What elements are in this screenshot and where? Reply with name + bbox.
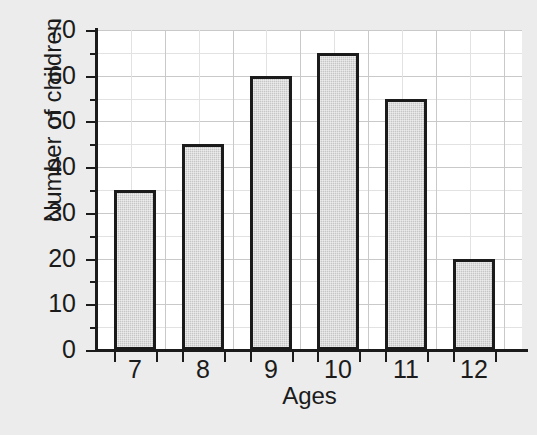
bar <box>317 53 359 350</box>
y-axis-tick-major <box>86 304 97 306</box>
y-axis-tick-label: 40 <box>30 154 76 179</box>
y-axis-tick-label: 60 <box>30 63 76 88</box>
gridline-horizontal <box>97 99 522 100</box>
y-axis-tick-major <box>86 30 97 32</box>
bar <box>453 259 495 350</box>
gridline-vertical <box>504 30 505 350</box>
y-axis-tick-label: 10 <box>30 291 76 316</box>
gridline-horizontal <box>97 167 522 168</box>
y-axis-tick-minor <box>90 327 97 329</box>
gridline-horizontal <box>97 144 522 145</box>
gridline-horizontal <box>97 30 522 31</box>
x-axis-tick-label: 11 <box>376 355 436 384</box>
gridline-horizontal <box>97 190 522 191</box>
bar <box>250 76 292 350</box>
gridline-vertical <box>233 30 234 350</box>
y-axis-tick-minor <box>90 281 97 283</box>
gridline-vertical <box>368 30 369 350</box>
gridline-horizontal <box>97 213 522 214</box>
gridline-horizontal <box>97 121 522 122</box>
x-axis-tick-label: 8 <box>173 355 233 384</box>
y-axis-tick-minor <box>90 53 97 55</box>
y-axis-tick-major <box>86 350 97 352</box>
y-axis-tick-minor <box>90 99 97 101</box>
y-axis-tick-minor <box>90 190 97 192</box>
y-axis-tick-label: 0 <box>30 337 76 362</box>
bar <box>114 190 156 350</box>
x-axis-tick-label: 12 <box>444 355 504 384</box>
gridline-vertical <box>300 30 301 350</box>
y-axis-tick-major <box>86 259 97 261</box>
y-axis-tick-minor <box>90 144 97 146</box>
bar <box>182 144 224 350</box>
gridline-horizontal <box>97 236 522 237</box>
bar <box>385 99 427 350</box>
x-axis-title: Ages <box>97 382 522 410</box>
y-axis-tick-major <box>86 76 97 78</box>
gridline-horizontal <box>97 53 522 54</box>
y-axis-tick-major <box>86 213 97 215</box>
x-axis-tick-label: 7 <box>105 355 165 384</box>
y-axis-tick-minor <box>90 236 97 238</box>
y-axis-tick-label: 30 <box>30 200 76 225</box>
x-axis-tick-label: 9 <box>241 355 301 384</box>
x-axis-tick-label: 10 <box>308 355 368 384</box>
gridline-horizontal <box>97 76 522 77</box>
y-axis-tick-label: 70 <box>30 17 76 42</box>
gridline-vertical <box>436 30 437 350</box>
bar-chart-figure: Number of children Ages 0102030405060707… <box>0 0 537 435</box>
y-axis-tick-label: 20 <box>30 246 76 271</box>
y-axis-tick-major <box>86 167 97 169</box>
gridline-vertical <box>165 30 166 350</box>
y-axis-tick-major <box>86 121 97 123</box>
y-axis-tick-label: 50 <box>30 108 76 133</box>
